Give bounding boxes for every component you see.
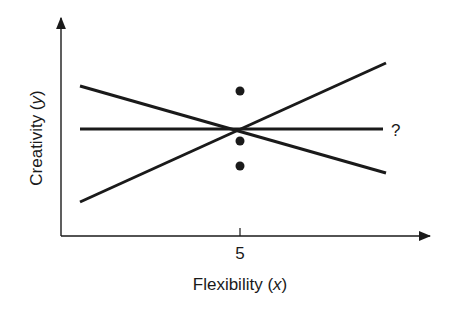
y-axis-label: Creativity (y)	[27, 90, 46, 185]
x-tick-label: 5	[235, 244, 244, 263]
data-point-middle	[236, 137, 245, 146]
data-point-top	[236, 87, 245, 96]
positive-slope-line	[80, 63, 386, 202]
question-mark-annotation: ?	[391, 121, 400, 140]
x-axis-label: Flexibility (x)	[193, 275, 287, 294]
regression-diagram: 5 Flexibility (x) Creativity (y) ?	[0, 0, 454, 316]
data-point-bottom	[236, 162, 245, 171]
